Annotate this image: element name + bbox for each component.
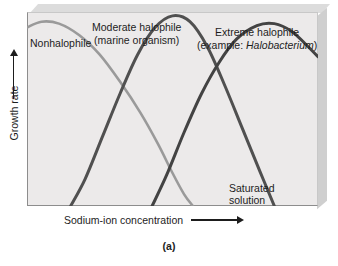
x-axis-group: Sodium-ion concentration (64, 212, 238, 228)
curve-label-extreme-prefix: (example: (197, 39, 246, 51)
curve-label-moderate-halophile: Moderate halophile (marine organism) (92, 21, 181, 46)
y-axis-title: Growth rate (8, 67, 20, 159)
figure-growth-rate-vs-sodium-ion: Nonhalophile Moderate halophile (marine … (0, 0, 338, 266)
curve-label-extreme-line2: (example: Halobacterium) (197, 39, 317, 52)
x-axis-title: Sodium-ion concentration (64, 214, 183, 226)
y-axis-group: Growth rate (2, 55, 26, 195)
curve-label-extreme-suffix: ) (314, 39, 318, 51)
figure-caption: (a) (0, 240, 338, 252)
curve-label-extreme-genus: Halobacterium (246, 39, 314, 51)
curve-label-moderate-line2: (marine organism) (92, 34, 181, 47)
panel-3d-right-face (317, 8, 327, 209)
annotation-saturated-line2: solution (229, 194, 275, 206)
curve-label-extreme-halophile: Extreme halophile (example: Halobacteriu… (197, 26, 317, 51)
annotation-saturated-line1: Saturated (229, 182, 275, 194)
curve-label-moderate-line1: Moderate halophile (92, 21, 181, 34)
annotation-saturated-solution: Saturated solution (229, 182, 275, 206)
arrow-right-icon (191, 219, 238, 220)
curve-label-nonhalophile: Nonhalophile (30, 37, 91, 50)
curve-label-extreme-line1: Extreme halophile (197, 26, 317, 39)
